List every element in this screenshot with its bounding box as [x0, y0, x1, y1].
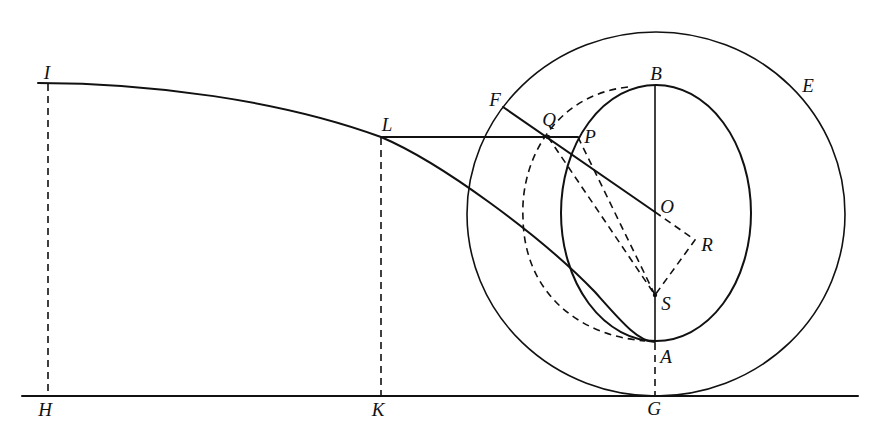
label-b: B	[650, 63, 662, 84]
geometric-diagram: I L F Q P B E O R S A H K G	[0, 0, 878, 439]
dashed-o-r-s	[655, 212, 695, 295]
point-q-mark	[546, 135, 550, 139]
point-s-mark	[653, 293, 657, 297]
label-p: P	[583, 126, 596, 147]
label-f: F	[488, 89, 501, 110]
label-i: I	[43, 62, 52, 83]
label-o: O	[660, 196, 674, 217]
label-h: H	[37, 399, 53, 420]
label-q: Q	[542, 109, 556, 130]
label-r: R	[700, 234, 713, 255]
dashed-q-s	[548, 137, 655, 295]
dashed-p-s	[578, 137, 655, 295]
label-e: E	[801, 75, 814, 96]
segment-f-o	[503, 107, 655, 212]
label-a: A	[658, 346, 672, 367]
label-l: L	[381, 114, 393, 135]
label-g: G	[647, 398, 661, 419]
label-s: S	[661, 293, 671, 314]
label-k: K	[371, 399, 386, 420]
curve-i-l-a	[38, 83, 655, 342]
